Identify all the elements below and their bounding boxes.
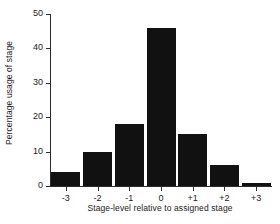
x-axis-title: Stage-level relative to assigned stage (40, 203, 280, 213)
y-axis-title-text: Percentage usage of stage (4, 41, 14, 145)
y-axis-tick-label: 0 (38, 180, 43, 191)
y-axis-tick-label: 30 (33, 77, 43, 88)
bar (51, 172, 80, 186)
y-axis-tick-label: 40 (33, 42, 43, 53)
y-axis-tick: 10 (46, 152, 50, 153)
x-axis-tick (66, 187, 67, 191)
bar (210, 165, 239, 186)
x-axis-tick (224, 187, 225, 191)
x-axis-tick (161, 187, 162, 191)
plot-area: 01020304050 -3-2-10+1+2+3 (50, 14, 272, 186)
y-axis-tick: 0 (46, 186, 50, 187)
x-axis-tick (98, 187, 99, 191)
y-axis-tick: 30 (46, 83, 50, 84)
y-axis-title: Percentage usage of stage (0, 0, 18, 186)
y-axis-tick: 20 (46, 117, 50, 118)
x-axis-tick (256, 187, 257, 191)
y-axis-line (50, 14, 51, 187)
bar (147, 28, 176, 186)
bar-chart-figure: Percentage usage of stage 01020304050 -3… (0, 0, 280, 224)
x-axis-tick (129, 187, 130, 191)
x-axis-tick (193, 187, 194, 191)
bar (242, 183, 271, 186)
bar (115, 124, 144, 186)
y-axis-tick-label: 50 (33, 8, 43, 19)
y-axis-tick: 40 (46, 48, 50, 49)
bar (83, 152, 112, 186)
bar (178, 134, 207, 186)
y-axis-tick: 50 (46, 14, 50, 15)
y-axis-tick-label: 10 (33, 146, 43, 157)
y-axis-tick-label: 20 (33, 111, 43, 122)
